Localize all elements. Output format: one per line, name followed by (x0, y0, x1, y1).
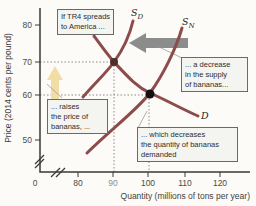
y-tick-label-70: 70 (23, 57, 33, 67)
tr4-callout-box: If TR4 spreads to America ... (57, 9, 114, 35)
x-tick-label-80: 80 (73, 178, 83, 188)
supply-sd-label-sub: D (137, 13, 144, 21)
x-tick-label-100: 100 (141, 178, 155, 188)
supply-decrease-callout-box: ... a decrease in the supply of bananas.… (181, 57, 248, 92)
y-tick-label-60: 60 (23, 90, 33, 100)
supply-sd-label: SD (131, 7, 144, 21)
demand-callout-leader (138, 111, 147, 128)
supply-sn-label: SN (182, 16, 196, 30)
y-tick-label-50: 50 (23, 135, 33, 145)
price-rise-callout-box: ... raises the price of bananas, ... (47, 99, 108, 134)
price-rise-up-arrow (47, 66, 63, 99)
x-axis-title: Quantity (millions of tons per year) (121, 191, 251, 201)
x-tick-label-120: 120 (213, 178, 227, 188)
chart-canvas: 80 70 60 50 0 80 90 100 110 120 Price (2… (0, 0, 256, 206)
x-tick-label-90: 90 (108, 178, 118, 188)
initial-equilibrium-dot (146, 90, 155, 99)
x-tick-label-0: 0 (33, 178, 38, 188)
y-axis-title: Price (2014 cents per pound) (3, 33, 13, 143)
quantity-decrease-callout-box: ... which decreases the quantity of bana… (137, 127, 238, 162)
supply-sn-label-sub: N (188, 22, 196, 30)
demand-label: D (200, 110, 209, 121)
supply-demand-chart: 80 70 60 50 0 80 90 100 110 120 Price (2… (0, 0, 256, 206)
new-equilibrium-dot (110, 58, 118, 66)
x-tick-label-110: 110 (178, 178, 192, 188)
y-tick-label-80: 80 (23, 20, 33, 30)
